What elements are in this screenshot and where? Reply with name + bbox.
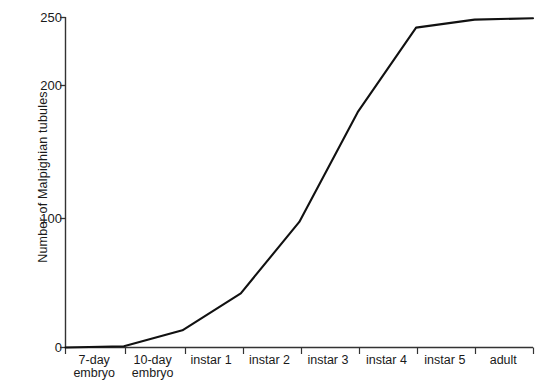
x-axis-label-8: adult <box>463 354 543 367</box>
x-axis-category-labels: 7-dayembryo10-dayembryoinstar 1instar 2i… <box>65 352 535 391</box>
y-axis-ticks <box>60 18 66 348</box>
data-series-line <box>66 18 534 347</box>
plot-area <box>0 0 550 391</box>
chart-figure: Number of Malpighian tubules 250 200 100… <box>0 0 550 391</box>
